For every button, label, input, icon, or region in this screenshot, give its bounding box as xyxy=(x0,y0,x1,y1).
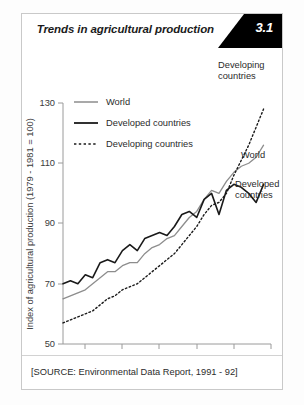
screenshot-root: Trends in agricultural production 3.1 xyxy=(0,0,304,405)
x-tick-1965: 1965 xyxy=(75,352,96,353)
chart-annotations: Developing countries World Developed cou… xyxy=(218,60,279,200)
legend-label-world: World xyxy=(106,97,130,107)
y-tick-50: 50 xyxy=(45,339,55,349)
y-tick-70: 70 xyxy=(45,279,55,289)
developed-countries-label-line1: Developed xyxy=(235,179,279,189)
y-axis-tick-labels: 130 110 90 70 50 xyxy=(39,98,55,349)
y-axis-title: Index of agricultural production (1979 -… xyxy=(25,118,35,330)
y-tick-130: 130 xyxy=(39,98,55,108)
legend-label-developed: Developed countries xyxy=(106,118,191,128)
figure-header: Trends in agricultural production 3.1 xyxy=(22,14,282,48)
x-tick-1990: 1990 xyxy=(261,352,282,353)
figure-number: 3.1 xyxy=(256,20,273,35)
page-title: Trends in agricultural production xyxy=(37,23,214,35)
line-chart: 130 110 90 70 50 1965 1970 1975 1980 198… xyxy=(22,48,282,353)
figure-card: Trends in agricultural production 3.1 xyxy=(21,13,283,390)
developing-countries-label-line1: Developing xyxy=(218,60,265,70)
x-axis-tick-labels: 1965 1970 1975 1980 1985 1990 xyxy=(75,352,282,353)
chart-legend: World Developed countries Developing cou… xyxy=(74,97,193,149)
footer-divider xyxy=(22,355,282,356)
developing-countries-label-line2: countries xyxy=(218,71,256,81)
x-tick-1975: 1975 xyxy=(149,352,170,353)
developed-countries-label-line2: countries xyxy=(235,190,273,200)
chart-container: 130 110 90 70 50 1965 1970 1975 1980 198… xyxy=(22,48,282,353)
source-note: [SOURCE: Environmental Data Report, 1991… xyxy=(31,367,238,377)
x-tick-1980: 1980 xyxy=(187,352,208,353)
y-tick-90: 90 xyxy=(45,218,55,228)
y-tick-110: 110 xyxy=(40,158,55,168)
legend-label-developing: Developing countries xyxy=(106,139,193,149)
series-line-developed-countries xyxy=(63,184,264,283)
world-label: World xyxy=(241,150,265,160)
x-tick-1985: 1985 xyxy=(224,352,245,353)
x-tick-1970: 1970 xyxy=(112,352,133,353)
